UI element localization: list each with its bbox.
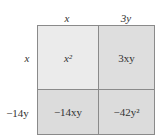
row-header-minus-14y: −14y bbox=[0, 107, 35, 119]
cell-minus-14xy: −14xy bbox=[38, 90, 99, 134]
cell-minus-42y-squared: −42y² bbox=[99, 90, 154, 134]
column-header-3y: 3y bbox=[114, 12, 138, 24]
cell-x-squared: x² bbox=[38, 26, 99, 90]
row-header-x: x bbox=[20, 52, 34, 64]
cell-3xy: 3xy bbox=[99, 26, 154, 90]
multiplication-area-grid: x² 3xy −14xy −42y² bbox=[37, 25, 155, 135]
column-header-x: x bbox=[55, 12, 79, 24]
